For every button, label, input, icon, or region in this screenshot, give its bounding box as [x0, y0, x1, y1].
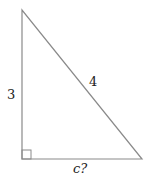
- bottom-side-label: c?: [73, 161, 88, 176]
- triangle-outline: [22, 10, 142, 159]
- right-angle-marker: [22, 150, 31, 159]
- left-side-label: 3: [7, 87, 15, 102]
- hypotenuse-label: 4: [89, 74, 97, 89]
- right-triangle-diagram: 3 4 c?: [0, 0, 150, 180]
